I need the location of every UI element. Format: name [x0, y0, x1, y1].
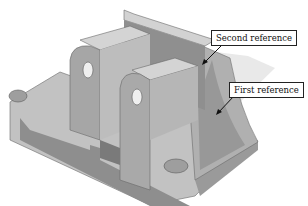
first-reference-label: First reference	[229, 82, 304, 98]
right-upright-hole	[132, 89, 142, 105]
second-reference-label: Second reference	[211, 30, 297, 46]
left-upright-hole	[83, 62, 93, 78]
base-hole-left	[9, 90, 27, 102]
left-upright-face	[70, 46, 100, 140]
base-hole-right	[164, 159, 188, 173]
